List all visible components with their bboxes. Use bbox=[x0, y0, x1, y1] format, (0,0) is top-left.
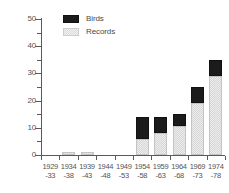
x-tick bbox=[170, 156, 171, 160]
bar-segment-records[interactable] bbox=[81, 152, 94, 155]
bar-segment-birds[interactable] bbox=[191, 87, 204, 103]
bar-group[interactable] bbox=[154, 117, 167, 155]
x-tick-label: 1974-78 bbox=[204, 162, 228, 180]
y-tick-label: 20 bbox=[12, 97, 36, 105]
y-tick-label: 50 bbox=[12, 15, 36, 23]
x-tick bbox=[225, 156, 226, 160]
x-tick bbox=[78, 156, 79, 160]
bar-group[interactable] bbox=[136, 117, 149, 155]
bar-group[interactable] bbox=[209, 60, 222, 155]
bar-segment-birds[interactable] bbox=[173, 114, 186, 126]
bar-segment-birds[interactable] bbox=[154, 117, 167, 133]
x-tick-label-line2: -78 bbox=[204, 171, 228, 180]
x-tick bbox=[41, 156, 42, 160]
bar-segment-records[interactable] bbox=[154, 133, 167, 155]
bar-segment-records[interactable] bbox=[173, 126, 186, 155]
y-tick-label: 30 bbox=[12, 69, 36, 77]
bar-segment-records[interactable] bbox=[136, 139, 149, 155]
bar-chart: Birds Records 01020304050 1929-331934-38… bbox=[0, 0, 229, 193]
bar-segment-records[interactable] bbox=[62, 152, 75, 155]
x-tick bbox=[133, 156, 134, 160]
bar-group[interactable] bbox=[81, 152, 94, 155]
y-tick-label: 0 bbox=[12, 151, 36, 159]
x-tick bbox=[207, 156, 208, 160]
x-tick bbox=[188, 156, 189, 160]
x-tick bbox=[115, 156, 116, 160]
x-tick bbox=[96, 156, 97, 160]
plot-area bbox=[41, 19, 225, 155]
y-tick-label: 40 bbox=[12, 42, 36, 50]
x-tick bbox=[59, 156, 60, 160]
bar-group[interactable] bbox=[173, 114, 186, 155]
bar-group[interactable] bbox=[191, 87, 204, 155]
y-tick-label: 10 bbox=[12, 124, 36, 132]
x-tick-label-line1: 1974 bbox=[204, 162, 228, 171]
bar-segment-records[interactable] bbox=[209, 76, 222, 155]
bar-segment-records[interactable] bbox=[191, 103, 204, 155]
bar-segment-birds[interactable] bbox=[136, 117, 149, 139]
x-tick bbox=[151, 156, 152, 160]
bar-group[interactable] bbox=[62, 152, 75, 155]
bar-segment-birds[interactable] bbox=[209, 60, 222, 76]
